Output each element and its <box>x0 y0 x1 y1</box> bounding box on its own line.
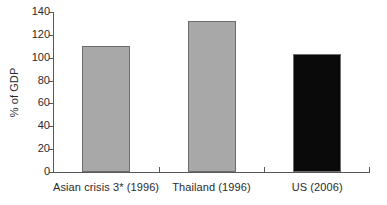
y-tick-label: 20 <box>38 141 50 156</box>
y-axis-title: % of GDP <box>7 12 21 173</box>
x-tick-mark <box>159 167 160 173</box>
category-label: Thailand (1996) <box>159 180 265 194</box>
bar <box>188 21 236 172</box>
bar <box>293 54 341 172</box>
y-tick-label: 100 <box>32 50 50 65</box>
plot-area: 140120100806040200 <box>53 12 370 173</box>
y-axis-line <box>53 12 54 173</box>
x-axis-line <box>53 172 370 173</box>
y-tick-label: 40 <box>38 118 50 133</box>
y-tick-label: 60 <box>38 95 50 110</box>
x-tick-mark <box>264 167 265 173</box>
bar-chart-figure: % of GDP 140120100806040200 Asian crisis… <box>0 0 387 205</box>
category-label: Asian crisis 3* (1996) <box>53 180 159 194</box>
category-label: US (2006) <box>264 180 370 194</box>
y-tick-label: 0 <box>44 164 50 179</box>
bar <box>82 46 130 172</box>
x-tick-mark <box>369 167 370 173</box>
y-tick-label: 80 <box>38 73 50 88</box>
y-tick-label: 140 <box>32 4 50 19</box>
y-tick-label: 120 <box>32 27 50 42</box>
